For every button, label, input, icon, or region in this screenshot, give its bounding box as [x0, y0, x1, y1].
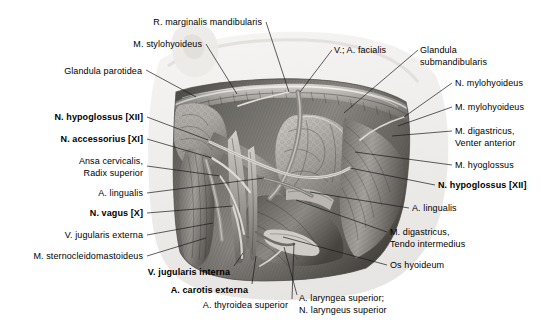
label-line: submandibularis [420, 57, 487, 69]
label-line: V. jugularis interna [148, 267, 230, 279]
label-line: M. digastricus, [455, 126, 516, 138]
label-glandula-parotidea: Glandula parotidea [64, 66, 142, 78]
label-v-jugularis-externa: V. jugularis externa [65, 230, 143, 242]
label-line: V. jugularis externa [65, 230, 143, 242]
label-line: R. marginalis mandibularis [153, 17, 262, 29]
label-a-lingualis-left: A. lingualis [98, 188, 143, 200]
anatomical-figure: R. marginalis mandibularisM. stylohyoide… [0, 0, 548, 334]
label-m-digastricus-tendo-intermedius: M. digastricus,Tendo intermedius [390, 227, 465, 250]
label-a-lingualis-right: A. lingualis [412, 203, 457, 215]
label-line: N. vagus [X] [90, 208, 143, 220]
label-m-digastricus-venter-anterior: M. digastricus,Venter anterior [455, 126, 516, 149]
label-line: Radix superior [79, 168, 143, 180]
label-a-thyroidea-superior: A. thyroidea superior [203, 300, 288, 312]
label-v-jugularis-interna: V. jugularis interna [148, 267, 230, 279]
label-line: M. digastricus, [390, 227, 465, 239]
label-line: N. hypoglossus [XII] [438, 180, 527, 192]
label-line: M. sternocleidomastoideus [33, 251, 143, 263]
label-line: Ansa cervicalis, [79, 156, 143, 168]
label-line: A. thyroidea superior [203, 300, 288, 312]
label-os-hyoideum: Os hyoideum [390, 260, 444, 272]
label-a-carotis-externa: A. carotis externa [171, 285, 248, 297]
label-line: Tendo intermedius [390, 239, 465, 251]
label-line: Glandula [420, 45, 487, 57]
label-line: M. hyoglossus [455, 160, 514, 172]
label-line: Venter anterior [455, 138, 516, 150]
label-line: M. mylohyoideus [455, 102, 524, 114]
label-v-a-facialis: V.; A. facialis [334, 45, 386, 57]
label-n-vagus-x: N. vagus [X] [90, 208, 143, 220]
label-m-sternocleidomastoideus: M. sternocleidomastoideus [33, 251, 143, 263]
label-line: A. lingualis [98, 188, 143, 200]
label-line: Os hyoideum [390, 260, 444, 272]
label-a-laryngea-n-laryngeus-superior: A. laryngea superior;N. laryngeus superi… [299, 293, 387, 316]
label-line: N. hypoglossus [XII] [54, 112, 143, 124]
label-m-stylohyoideus: M. stylohyoideus [133, 39, 202, 51]
label-n-hypoglossus-xii-left: N. hypoglossus [XII] [54, 112, 143, 124]
label-line: A. lingualis [412, 203, 457, 215]
label-line: M. stylohyoideus [133, 39, 202, 51]
label-line: V.; A. facialis [334, 45, 386, 57]
label-m-hyoglossus: M. hyoglossus [455, 160, 514, 172]
label-n-mylohyoideus: N. mylohyoideus [455, 78, 523, 90]
label-line: N. laryngeus superior [299, 305, 387, 317]
label-r-marginalis-mandibularis: R. marginalis mandibularis [153, 17, 262, 29]
label-line: N. accessorius [XI] [61, 134, 143, 146]
label-m-mylohyoideus: M. mylohyoideus [455, 102, 524, 114]
label-ansa-cervicalis-radix-superior: Ansa cervicalis,Radix superior [79, 156, 143, 179]
label-line: N. mylohyoideus [455, 78, 523, 90]
label-line: Glandula parotidea [64, 66, 142, 78]
label-glandula-submandibularis: Glandulasubmandibularis [420, 45, 487, 68]
label-n-hypoglossus-xii-right: N. hypoglossus [XII] [438, 180, 527, 192]
label-n-accessorius-xi: N. accessorius [XI] [61, 134, 143, 146]
label-line: A. carotis externa [171, 285, 248, 297]
label-line: A. laryngea superior; [299, 293, 387, 305]
